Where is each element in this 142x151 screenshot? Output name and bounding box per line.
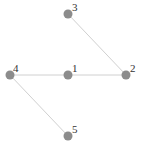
- node-label-1: 1: [72, 62, 78, 74]
- node-label-2: 2: [130, 62, 136, 74]
- node-1: 1: [64, 62, 78, 80]
- edge-4-5: [10, 75, 68, 136]
- nodes: 1 2 3 4 5: [6, 1, 136, 141]
- node-5: 5: [64, 123, 79, 141]
- node-label-5: 5: [72, 123, 78, 135]
- node-4: 4: [6, 62, 20, 80]
- node-label-3: 3: [72, 1, 78, 13]
- node-2: 2: [122, 62, 136, 80]
- node-3: 3: [64, 1, 79, 19]
- network-graph: 1 2 3 4 5: [0, 0, 142, 151]
- node-label-4: 4: [13, 62, 19, 74]
